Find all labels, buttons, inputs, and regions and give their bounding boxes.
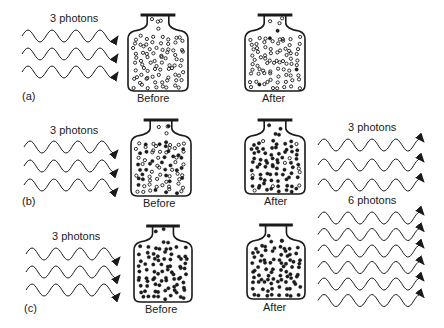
photon-wave-icon (26, 266, 120, 278)
excited-atom-icon (136, 163, 139, 166)
ground-atom-icon (151, 75, 154, 78)
excited-atom-icon (168, 180, 171, 183)
excited-atom-icon (286, 275, 289, 278)
ground-atom-icon (253, 58, 256, 61)
excited-atom-icon (263, 261, 266, 264)
excited-atom-icon (251, 287, 254, 290)
ground-atom-icon (296, 48, 299, 51)
ground-atom-icon (132, 46, 135, 49)
excited-atom-icon (256, 250, 259, 253)
ground-atom-icon (139, 43, 142, 46)
ground-atom-icon (153, 59, 156, 62)
excited-atom-icon (137, 177, 140, 180)
excited-atom-icon (152, 263, 155, 266)
ground-atom-icon (277, 67, 280, 70)
panel-label-c: (c) (24, 302, 37, 314)
excited-atom-icon (172, 155, 175, 158)
ground-atom-icon (263, 83, 266, 86)
excited-atom-icon (154, 188, 157, 191)
excited-atom-icon (254, 247, 257, 250)
ground-atom-icon (134, 52, 137, 55)
ground-atom-icon (296, 59, 299, 62)
excited-atom-icon (279, 268, 282, 271)
ground-atom-icon (168, 64, 171, 67)
ground-atom-icon (142, 66, 145, 69)
excited-atom-icon (251, 184, 254, 187)
excited-atom-icon (267, 124, 270, 127)
ground-atom-icon (154, 145, 157, 148)
ground-atom-icon (138, 142, 141, 145)
excited-atom-icon (295, 187, 298, 190)
outgoing-photons-label-c: 6 photons (348, 194, 397, 206)
ground-atom-icon (165, 180, 168, 183)
ground-atom-icon (269, 78, 272, 81)
ground-atom-icon (157, 27, 160, 30)
ground-atom-icon (167, 42, 170, 45)
ground-atom-icon (251, 68, 254, 71)
ground-atom-icon (168, 175, 171, 178)
excited-atom-icon (296, 246, 299, 249)
ground-atom-icon (288, 44, 291, 47)
ground-atom-icon (134, 69, 137, 72)
excited-atom-icon (269, 261, 272, 264)
excited-atom-icon (266, 294, 269, 297)
ground-atom-icon (283, 161, 286, 164)
ground-atom-icon (136, 190, 139, 193)
ground-atom-icon (157, 125, 160, 128)
excited-atom-icon (141, 173, 144, 176)
ground-atom-icon (157, 73, 160, 76)
excited-atom-icon (296, 176, 299, 179)
excited-atom-icon (184, 273, 187, 276)
excited-atom-icon (266, 289, 269, 292)
ground-atom-icon (176, 172, 179, 175)
ground-atom-icon (134, 38, 137, 41)
excited-atom-icon (169, 258, 172, 261)
excited-atom-icon (272, 139, 275, 142)
excited-atom-icon (266, 278, 269, 281)
excited-atom-icon (271, 157, 274, 160)
ground-atom-icon (142, 45, 145, 48)
excited-atom-icon (294, 282, 297, 285)
excited-atom-icon (283, 168, 286, 171)
jar-after-a (245, 15, 305, 91)
ground-atom-icon (139, 34, 142, 37)
excited-atom-icon (158, 284, 161, 287)
ground-atom-icon (175, 58, 178, 61)
ground-atom-icon (284, 47, 287, 50)
excited-atom-icon (260, 254, 263, 257)
excited-atom-icon (263, 280, 266, 283)
photon-wave-icon (22, 48, 118, 60)
ground-atom-icon (256, 50, 259, 53)
jar-before-c (134, 226, 192, 302)
photon-absorption-diagram: 3 photons Before After (a) 3 photons Bef… (0, 0, 444, 328)
excited-atom-icon (289, 276, 292, 279)
excited-atom-icon (280, 253, 283, 256)
excited-atom-icon (172, 273, 175, 276)
excited-atom-icon (280, 261, 283, 264)
excited-atom-icon (160, 263, 163, 266)
panel-c: 3 photons Before After 6 photons (c) (24, 194, 424, 315)
ground-atom-icon (259, 56, 262, 59)
ground-atom-icon (285, 73, 288, 76)
excited-atom-icon (279, 245, 282, 248)
ground-atom-icon (295, 52, 298, 55)
ground-atom-icon (141, 162, 144, 165)
ground-atom-icon (285, 62, 288, 65)
ground-atom-icon (250, 43, 253, 46)
ground-atom-icon (285, 53, 288, 56)
ground-atom-icon (143, 185, 146, 188)
before-label-a: Before (137, 92, 169, 104)
excited-atom-icon (143, 290, 146, 293)
excited-atom-icon (285, 293, 288, 296)
ground-atom-icon (174, 73, 177, 76)
excited-atom-icon (279, 274, 282, 277)
ground-atom-icon (253, 189, 256, 192)
excited-atom-icon (164, 289, 167, 292)
ground-atom-icon (148, 48, 151, 51)
excited-atom-icon (175, 169, 178, 172)
excited-atom-icon (279, 127, 282, 130)
ground-atom-icon (178, 36, 181, 39)
ground-atom-icon (152, 52, 155, 55)
ground-atom-icon (258, 68, 261, 71)
excited-atom-icon (167, 150, 170, 153)
